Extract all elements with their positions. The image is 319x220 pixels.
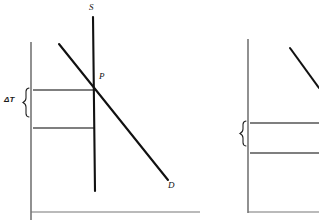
demand-curve: [59, 44, 168, 180]
tax-brace: [240, 121, 246, 146]
supply-curve-label: S: [89, 3, 94, 12]
supply-curve: [93, 17, 95, 191]
demand-curve-label: D: [168, 181, 175, 190]
elastic-supply-panel: ΔT: [200, 0, 319, 220]
equilibrium-point-label: P: [99, 72, 105, 81]
demand-curve: [290, 48, 319, 88]
tax-wedge-label: ΔT: [4, 96, 15, 104]
inelastic-supply-panel: S P D ΔT: [0, 0, 200, 220]
tax-brace: [23, 88, 29, 117]
figure-canvas: S P D ΔT ΔT: [0, 0, 319, 220]
